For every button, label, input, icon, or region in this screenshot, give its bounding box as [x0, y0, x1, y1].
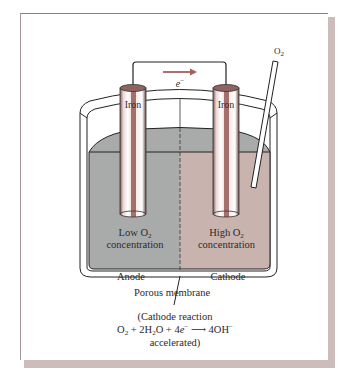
cathode-conc-prefix: High O: [209, 227, 240, 238]
reaction-line-1: (Cathode reaction: [105, 311, 245, 323]
reaction-equation: O2 + 2H2O + 4e− ⟶ 4OH−: [95, 324, 255, 336]
anode-conc-word: concentration: [106, 239, 163, 250]
eq-water-tail: O + 4: [156, 324, 180, 335]
eq-water-h: + 2H: [128, 324, 152, 335]
anode-concentration-label: Low O2 concentration: [95, 227, 175, 251]
cathode-conc-word: concentration: [198, 239, 255, 250]
anode-conc-prefix: Low O: [119, 227, 148, 238]
reaction-line-3: accelerated): [125, 337, 225, 349]
eq-oxygen: O: [117, 324, 125, 335]
electron-flow-arrow: [163, 69, 197, 76]
figure-stage: O2 e− Iron Iron Low O2 concentration Hig…: [0, 0, 346, 383]
eq-product-sup: −: [229, 323, 233, 331]
anode-label: Anode: [106, 271, 156, 283]
eq-product: 4OH: [209, 324, 229, 335]
electron-charge: −: [180, 77, 184, 85]
eq-arrow: ⟶: [188, 324, 208, 335]
cathode-concentration-label: High O2 concentration: [184, 227, 269, 251]
cathode-label: Cathode: [198, 271, 258, 283]
electrode-label-left: Iron: [113, 99, 153, 111]
electrode-label-right: Iron: [206, 99, 246, 111]
membrane-label: Porous membrane: [122, 287, 222, 299]
electron-label: e−: [160, 78, 200, 90]
oxygen-label: O2: [249, 45, 309, 57]
oxygen-label-subscript: 2: [281, 50, 285, 58]
